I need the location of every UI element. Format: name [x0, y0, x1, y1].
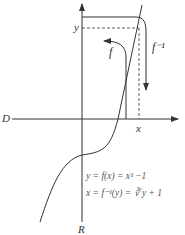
range-label: R	[78, 224, 85, 235]
y-label: y	[74, 22, 79, 33]
f-arrow	[104, 41, 126, 119]
equation-f: y = f(x) = x³ −1	[86, 172, 146, 182]
f-inverse-label: f⁻¹	[152, 41, 165, 53]
f-label: f	[109, 46, 112, 58]
x-label: x	[136, 123, 141, 134]
function-diagram	[0, 0, 185, 235]
equation-f-inverse: x = f⁻¹(y) = ∛ y + 1	[86, 189, 162, 199]
domain-label: D	[2, 113, 10, 124]
